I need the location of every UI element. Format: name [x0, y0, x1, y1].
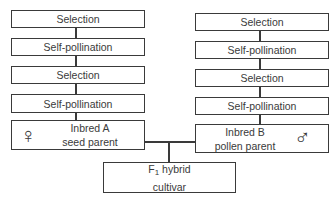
- right-step-1: Selection: [195, 13, 329, 31]
- right-step-1-label: Selection: [240, 16, 283, 28]
- f1-hybrid-label: hybrid: [159, 163, 191, 175]
- left-step-2-label: Self-pollination: [44, 41, 113, 53]
- cross-connector: [145, 141, 195, 143]
- right-step-3: Selection: [195, 69, 329, 87]
- male-symbol-icon: ♂: [294, 127, 311, 149]
- female-symbol-icon: ♀: [20, 125, 37, 147]
- right-step-4: Self-pollination: [195, 97, 329, 115]
- inbred-a-title: Inbred A: [70, 121, 109, 135]
- left-step-4: Self-pollination: [11, 94, 145, 113]
- left-step-4-label: Self-pollination: [44, 98, 113, 110]
- right-step-2-label: Self-pollination: [228, 44, 297, 56]
- right-step-3-label: Selection: [240, 72, 283, 84]
- left-step-3-label: Selection: [56, 69, 99, 81]
- left-step-1: Selection: [11, 10, 145, 28]
- left-step-1-label: Selection: [56, 13, 99, 25]
- left-step-3: Selection: [11, 66, 145, 84]
- left-step-2: Self-pollination: [11, 38, 145, 56]
- inbred-a-role: seed parent: [62, 135, 117, 149]
- f1-title: F1 hybrid: [148, 162, 190, 180]
- right-step-4-label: Self-pollination: [228, 100, 297, 112]
- inbred-b-title: Inbred B: [225, 125, 265, 139]
- inbred-b-role: pollen parent: [215, 139, 276, 153]
- f1-hybrid-box: F1 hybrid cultivar: [103, 162, 236, 193]
- f1-cultivar-label: cultivar: [153, 180, 186, 194]
- cross-drop: [168, 141, 170, 162]
- right-step-2: Self-pollination: [195, 41, 329, 59]
